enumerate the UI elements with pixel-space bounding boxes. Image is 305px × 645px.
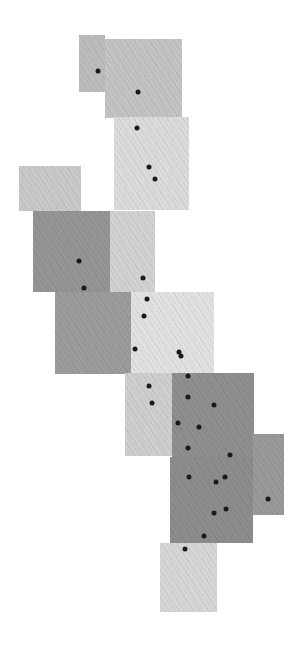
marker-dot xyxy=(135,126,140,131)
mosaic-canvas xyxy=(0,0,305,645)
marker-dot xyxy=(82,286,87,291)
marker-dot xyxy=(186,374,191,379)
marker-dot xyxy=(202,534,207,539)
image-tile-k xyxy=(170,457,253,543)
marker-dot xyxy=(136,90,141,95)
marker-dot xyxy=(224,507,229,512)
image-tile-f xyxy=(110,211,155,292)
marker-dot xyxy=(147,165,152,170)
image-tile-h xyxy=(131,292,214,373)
marker-dot xyxy=(179,354,184,359)
marker-dot xyxy=(141,276,146,281)
marker-dot xyxy=(150,401,155,406)
marker-dot xyxy=(153,177,158,182)
marker-dot xyxy=(147,384,152,389)
image-tile-c xyxy=(114,117,189,210)
marker-dot xyxy=(223,475,228,480)
image-tile-b xyxy=(105,39,182,118)
marker-dot xyxy=(186,446,191,451)
marker-dot xyxy=(197,425,202,430)
marker-dot xyxy=(266,497,271,502)
image-tile-a xyxy=(79,35,105,92)
marker-dot xyxy=(145,297,150,302)
marker-dot xyxy=(96,69,101,74)
marker-dot xyxy=(77,259,82,264)
image-tile-e xyxy=(33,211,110,292)
marker-dot xyxy=(212,511,217,516)
marker-dot xyxy=(212,403,217,408)
image-tile-d xyxy=(19,166,81,211)
marker-dot xyxy=(133,347,138,352)
image-tile-m xyxy=(160,543,217,612)
image-tile-j xyxy=(172,373,254,457)
marker-dot xyxy=(228,453,233,458)
marker-dot xyxy=(187,475,192,480)
image-tile-g xyxy=(55,292,131,374)
marker-dot xyxy=(186,395,191,400)
image-tile-l xyxy=(253,434,284,515)
marker-dot xyxy=(214,480,219,485)
marker-dot xyxy=(176,421,181,426)
marker-dot xyxy=(142,314,147,319)
marker-dot xyxy=(183,547,188,552)
